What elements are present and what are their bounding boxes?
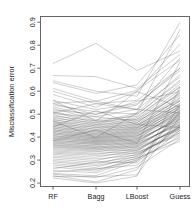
y-tick-label: 0.8: [28, 40, 37, 50]
parallel-coordinates-chart: 0.20.30.40.50.60.70.80.9RFBaggLBoostGues…: [0, 0, 194, 218]
y-tick-label: 0.9: [28, 17, 37, 27]
y-tick-label: 0.5: [28, 109, 37, 119]
y-axis-title: Misclassification error: [7, 65, 16, 137]
x-tick-label-lboost: LBoost: [126, 192, 148, 201]
x-tick-label-guess: Guess: [170, 192, 191, 201]
axis-group: [37, 17, 189, 190]
y-tick-label: 0.6: [28, 86, 37, 96]
series-line: [53, 30, 180, 138]
y-tick-label: 0.4: [28, 132, 37, 142]
x-tick-label-rf: RF: [48, 192, 58, 201]
y-tick-label: 0.7: [28, 63, 37, 73]
series-lines-group: [53, 22, 180, 183]
y-tick-label: 0.2: [28, 178, 37, 188]
x-tick-label-bagg: Bagg: [88, 192, 105, 201]
y-tick-label: 0.3: [28, 155, 37, 165]
chart-figure: 0.20.30.40.50.60.70.80.9RFBaggLBoostGues…: [0, 0, 194, 218]
